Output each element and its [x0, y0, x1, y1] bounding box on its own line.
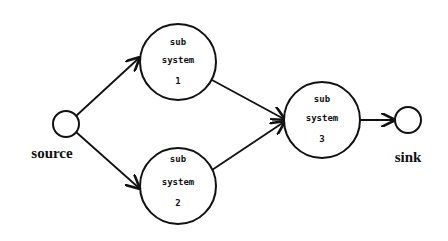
subsystem-1-line3: 1: [175, 76, 180, 86]
edge-source-s1: [76, 58, 139, 116]
network-diagram: source sub system 1 sub system 2 sub sys…: [0, 0, 448, 241]
subsystem-2-node: sub system 2: [140, 148, 216, 224]
subsystem-2-line1: sub: [170, 154, 187, 164]
subsystem-2-line3: 2: [175, 198, 180, 208]
subsystem-3-line1: sub: [314, 94, 331, 104]
subsystem-1-line1: sub: [170, 37, 187, 47]
edge-s1-s3: [212, 80, 284, 119]
subsystem-3-node: sub system 3: [284, 82, 360, 158]
subsystem-2-line2: system: [162, 177, 195, 187]
subsystem-1-line2: system: [162, 55, 195, 65]
edge-source-s2: [76, 132, 139, 188]
sink-label: sink: [395, 149, 422, 165]
subsystem-3-line3: 3: [319, 134, 324, 144]
source-node: source: [31, 111, 79, 161]
subsystem-3-line2: system: [306, 113, 339, 123]
edge-s2-s3: [212, 122, 284, 170]
sink-node: sink: [395, 107, 422, 165]
subsystem-1-node: sub system 1: [140, 24, 216, 100]
source-label: source: [31, 145, 73, 161]
